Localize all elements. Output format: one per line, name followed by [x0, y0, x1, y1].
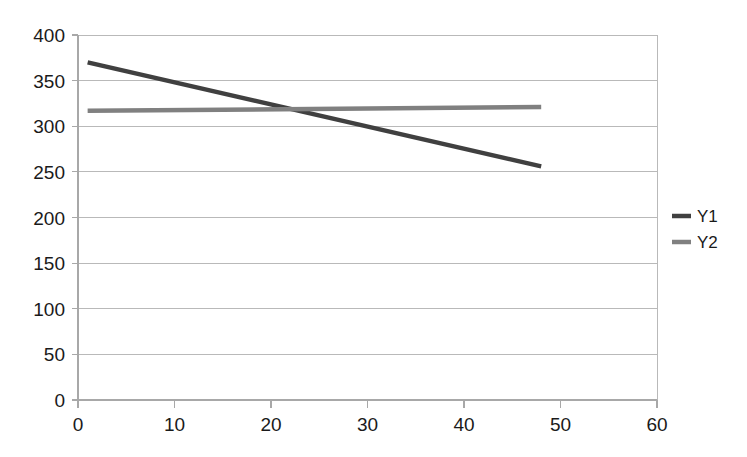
- x-tick-label-40: 40: [453, 414, 474, 435]
- y-tick-label-400: 400: [33, 25, 65, 46]
- y-tick-label-200: 200: [33, 208, 65, 229]
- x-tick-label-60: 60: [646, 414, 667, 435]
- y-tick-label-250: 250: [33, 162, 65, 183]
- y-tick-label-0: 0: [54, 390, 65, 411]
- x-tick-label-10: 10: [164, 414, 185, 435]
- y-tick-label-50: 50: [44, 344, 65, 365]
- chart-container: 050100150200250300350400 0102030405060 Y…: [0, 0, 747, 457]
- x-tick-label-20: 20: [260, 414, 281, 435]
- x-tick-label-50: 50: [550, 414, 571, 435]
- y-tick-label-350: 350: [33, 71, 65, 92]
- x-tick-label-0: 0: [73, 414, 84, 435]
- y-tick-label-150: 150: [33, 253, 65, 274]
- legend-label-y2: Y2: [697, 233, 718, 252]
- y-tick-label-100: 100: [33, 299, 65, 320]
- line-chart: 050100150200250300350400 0102030405060 Y…: [0, 0, 747, 457]
- legend-label-y1: Y1: [697, 207, 718, 226]
- x-tick-label-30: 30: [357, 414, 378, 435]
- y-tick-label-300: 300: [33, 116, 65, 137]
